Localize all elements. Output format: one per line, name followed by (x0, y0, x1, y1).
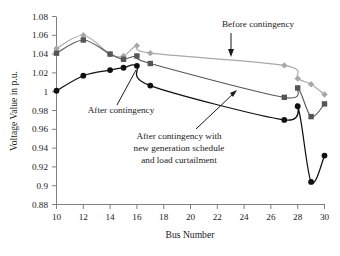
data-point-marker (81, 37, 86, 42)
data-point-marker (322, 101, 327, 106)
x-axis-ticks (57, 205, 325, 210)
y-axis-title: Voltage Value in p.u. (8, 71, 19, 151)
annotation-label: Before contingency (222, 19, 295, 29)
data-point-marker (121, 65, 127, 71)
x-axis-title: Bus Number (166, 229, 216, 240)
x-tick-label: 18 (159, 212, 169, 222)
y-tick-label: 1.04 (32, 49, 48, 59)
series-3 (54, 63, 328, 185)
annotation-label-line2: new generation schedule (134, 143, 225, 153)
data-point-marker (54, 50, 59, 55)
data-point-marker (295, 85, 300, 90)
y-tick-label: 0.94 (32, 143, 48, 153)
y-tick-label: 1 (43, 87, 48, 97)
data-point-marker (147, 50, 153, 56)
series-1 (53, 32, 327, 98)
annotation-label-line3: and load curtailment (141, 155, 217, 165)
data-point-marker (148, 61, 153, 66)
x-tick-label: 14 (106, 212, 116, 222)
y-tick-label: 1.08 (32, 12, 48, 22)
y-axis-ticks (52, 17, 57, 205)
x-axis-tick-labels: 10 12 14 16 18 20 22 24 26 28 30 (52, 212, 330, 222)
y-tick-label: 1.06 (32, 30, 48, 40)
x-tick-label: 28 (293, 212, 303, 222)
data-point-marker (322, 153, 328, 159)
data-point-marker (308, 81, 314, 87)
data-point-marker (134, 42, 140, 48)
data-point-marker (80, 73, 86, 79)
data-point-marker (107, 51, 112, 56)
x-tick-label: 26 (266, 212, 276, 222)
y-tick-label: 0.9 (37, 181, 49, 191)
y-tick-label: 1.02 (32, 68, 48, 78)
data-point-marker (121, 57, 126, 62)
voltage-profile-chart: 0.88 0.9 0.92 0.94 0.96 0.98 1 1.02 1.04… (0, 0, 340, 256)
leader-line-after-contingency (117, 70, 136, 105)
x-tick-label: 22 (213, 212, 223, 222)
data-point-marker (54, 88, 60, 94)
x-tick-label: 16 (132, 212, 142, 222)
y-tick-label: 0.92 (32, 162, 48, 172)
data-point-marker (134, 63, 140, 69)
x-tick-label: 10 (52, 212, 62, 222)
x-tick-label: 30 (320, 212, 330, 222)
x-tick-label: 12 (79, 212, 89, 222)
annotation-label: After contingency (88, 105, 155, 115)
y-tick-label: 0.88 (32, 200, 48, 210)
data-point-marker (295, 75, 301, 81)
data-point-marker (282, 95, 287, 100)
arrowhead-before-contingency (228, 49, 234, 57)
data-point-marker (295, 103, 301, 109)
chart-svg: 0.88 0.9 0.92 0.94 0.96 0.98 1 1.02 1.04… (0, 0, 340, 256)
data-point-marker (308, 179, 314, 185)
x-tick-label: 24 (240, 212, 250, 222)
annotation-after-contingency: After contingency (88, 105, 155, 115)
annotation-label-line1: After contingency with (136, 131, 222, 141)
data-point-marker (281, 62, 287, 68)
data-point-marker (134, 53, 139, 58)
data-point-marker (308, 114, 313, 119)
series-line (57, 65, 325, 183)
annotation-after-contingency-new-schedule: After contingency with new generation sc… (134, 131, 225, 165)
annotation-before-contingency: Before contingency (222, 19, 295, 29)
leader-line-after-contingency-new-schedule (196, 93, 234, 129)
y-axis-tick-labels: 0.88 0.9 0.92 0.94 0.96 0.98 1 1.02 1.04… (32, 12, 48, 210)
x-tick-label: 20 (186, 212, 196, 222)
data-point-marker (147, 83, 153, 89)
data-point-marker (281, 117, 287, 123)
y-tick-label: 0.98 (32, 106, 48, 116)
data-point-marker (107, 67, 113, 73)
y-tick-label: 0.96 (32, 124, 48, 134)
